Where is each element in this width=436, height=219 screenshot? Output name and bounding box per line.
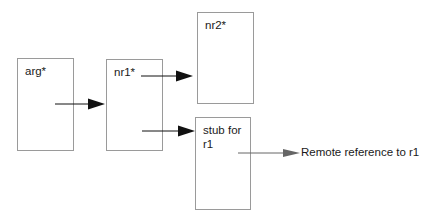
remote-reference-label: Remote reference to r1 [301,146,419,158]
arrows-layer [0,0,436,219]
arrow-stub-to-remote [238,149,300,157]
arrow-nr1-to-stub [142,126,195,137]
arrow-arg-to-nr1 [55,99,105,110]
arrow-nr1-to-nr2 [141,71,193,82]
